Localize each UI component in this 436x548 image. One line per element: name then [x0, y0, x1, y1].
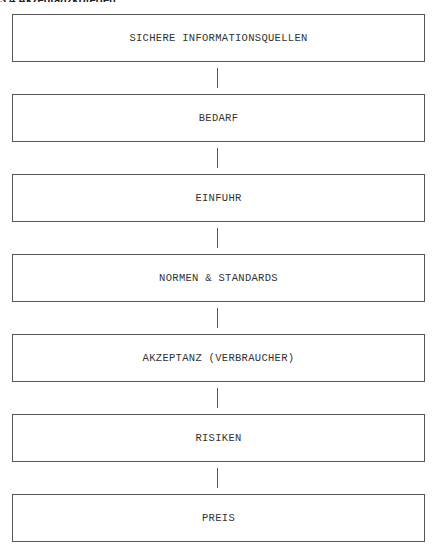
- connector-stroke: [217, 68, 218, 88]
- box-label: EINFUHR: [195, 192, 241, 204]
- connector-line: [217, 62, 218, 94]
- box-label: SICHERE INFORMATIONSQUELLEN: [129, 32, 307, 44]
- connector-stroke: [217, 228, 218, 248]
- box-label: NORMEN & STANDARDS: [159, 272, 278, 284]
- flow-box-risiken: RISIKEN: [12, 414, 425, 462]
- connector-stroke: [217, 308, 218, 328]
- box-label: AKZEPTANZ (VERBRAUCHER): [143, 352, 295, 364]
- header-title: 3.4 Akzeptanzkriterien: [0, 0, 150, 2]
- connector-line: [217, 382, 218, 414]
- connector-line: [217, 222, 218, 254]
- flow-box-normen-standards: NORMEN & STANDARDS: [12, 254, 425, 302]
- connector-stroke: [217, 148, 218, 168]
- box-label: PREIS: [202, 512, 235, 524]
- flow-box-bedarf: BEDARF: [12, 94, 425, 142]
- connector-stroke: [217, 468, 218, 488]
- connector-line: [217, 142, 218, 174]
- box-label: BEDARF: [199, 112, 239, 124]
- connector-stroke: [217, 388, 218, 408]
- flow-box-preis: PREIS: [12, 494, 425, 542]
- flow-box-sichere-informationsquellen: SICHERE INFORMATIONSQUELLEN: [12, 14, 425, 62]
- box-label: RISIKEN: [195, 432, 241, 444]
- flow-box-einfuhr: EINFUHR: [12, 174, 425, 222]
- page-header-cropped: 3.4 Akzeptanzkriterien: [0, 0, 150, 2]
- connector-line: [217, 462, 218, 494]
- connector-line: [217, 302, 218, 334]
- flow-diagram: SICHERE INFORMATIONSQUELLEN BEDARF EINFU…: [12, 14, 425, 542]
- flow-box-akzeptanz: AKZEPTANZ (VERBRAUCHER): [12, 334, 425, 382]
